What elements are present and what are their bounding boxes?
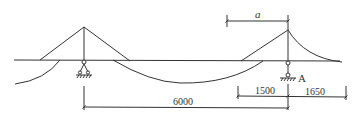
dim-a-label: a bbox=[255, 8, 261, 20]
dim-1650-label: 1650 bbox=[305, 86, 325, 97]
left-support bbox=[76, 60, 92, 78]
right-support-a bbox=[280, 61, 296, 81]
beam bbox=[14, 60, 340, 61]
dim-1500-label: 1500 bbox=[255, 85, 275, 96]
structural-diagram: a A 1500 1650 6000 bbox=[0, 0, 355, 130]
dimension-1500-1650 bbox=[237, 84, 348, 110]
left-curve bbox=[15, 60, 60, 84]
left-tower bbox=[40, 27, 130, 61]
middle-cable bbox=[113, 60, 263, 83]
right-tower bbox=[241, 30, 342, 62]
support-a-label: A bbox=[298, 72, 306, 84]
dim-6000-label: 6000 bbox=[173, 96, 193, 107]
